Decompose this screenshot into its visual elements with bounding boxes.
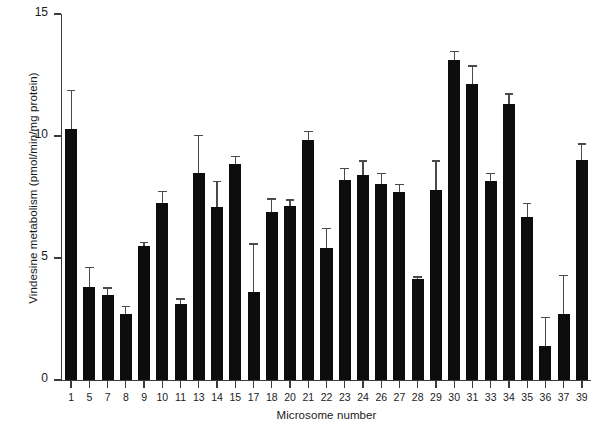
error-bar-stem bbox=[71, 90, 72, 129]
error-bar-stem bbox=[271, 198, 272, 211]
x-tick-mark bbox=[545, 381, 546, 388]
x-tick-mark bbox=[399, 381, 400, 388]
x-tick-label: 29 bbox=[430, 391, 442, 403]
bar bbox=[448, 60, 460, 380]
bar bbox=[412, 279, 424, 380]
error-bar-cap bbox=[505, 93, 514, 94]
error-bar-cap bbox=[158, 191, 167, 192]
x-tick-label: 36 bbox=[540, 391, 552, 403]
x-tick-label: 14 bbox=[211, 391, 223, 403]
x-tick-label: 27 bbox=[394, 391, 406, 403]
x-tick-label: 18 bbox=[266, 391, 278, 403]
x-tick-mark bbox=[143, 381, 144, 388]
x-tick-mark bbox=[454, 381, 455, 388]
bar bbox=[485, 181, 497, 380]
error-bar-cap bbox=[249, 243, 258, 244]
y-tick-label: 0 bbox=[0, 371, 48, 385]
error-bar-stem bbox=[527, 203, 528, 216]
error-bar-stem bbox=[216, 181, 217, 207]
bar bbox=[558, 314, 570, 380]
error-bar-cap bbox=[578, 143, 587, 144]
error-bar-cap bbox=[213, 181, 222, 182]
x-tick-label: 26 bbox=[375, 391, 387, 403]
error-bar-cap bbox=[377, 173, 386, 174]
error-bar-cap bbox=[322, 228, 331, 229]
x-tick-mark bbox=[581, 381, 582, 388]
x-tick-mark bbox=[417, 381, 418, 388]
x-tick-mark bbox=[125, 381, 126, 388]
x-tick-mark bbox=[326, 381, 327, 388]
x-tick-mark bbox=[508, 381, 509, 388]
x-tick-mark bbox=[235, 381, 236, 388]
y-tick-label: 15 bbox=[0, 5, 48, 19]
error-bar-cap bbox=[194, 135, 203, 136]
error-bar-cap bbox=[523, 203, 532, 204]
x-tick-mark bbox=[563, 381, 564, 388]
bar bbox=[339, 180, 351, 380]
bar bbox=[156, 203, 168, 380]
error-bar-cap bbox=[432, 160, 441, 161]
bar bbox=[430, 190, 442, 380]
x-tick-label: 22 bbox=[321, 391, 333, 403]
bar bbox=[320, 248, 332, 380]
error-bar-cap bbox=[468, 65, 477, 66]
bar bbox=[211, 207, 223, 380]
x-tick-mark bbox=[527, 381, 528, 388]
error-bar-stem bbox=[472, 65, 473, 83]
error-bar-stem bbox=[381, 173, 382, 184]
bar bbox=[266, 212, 278, 380]
error-bar-cap bbox=[304, 131, 313, 132]
bar bbox=[248, 292, 260, 380]
y-tick-mark bbox=[54, 135, 61, 136]
bar bbox=[120, 314, 132, 380]
x-tick-label: 8 bbox=[123, 391, 129, 403]
y-tick-label: 10 bbox=[0, 127, 48, 141]
y-tick-mark bbox=[54, 379, 61, 380]
bar bbox=[83, 287, 95, 380]
x-tick-mark bbox=[490, 381, 491, 388]
x-tick-label: 17 bbox=[248, 391, 260, 403]
x-tick-label: 7 bbox=[105, 391, 111, 403]
x-tick-label: 10 bbox=[156, 391, 168, 403]
bar bbox=[229, 164, 241, 380]
x-tick-mark bbox=[271, 381, 272, 388]
x-tick-mark bbox=[89, 381, 90, 388]
x-tick-label: 30 bbox=[448, 391, 460, 403]
x-tick-mark bbox=[162, 381, 163, 388]
x-tick-label: 39 bbox=[576, 391, 588, 403]
x-tick-mark bbox=[435, 381, 436, 388]
error-bar-cap bbox=[231, 156, 240, 157]
figure: Vindesine metabolism (pmol/min/mg protei… bbox=[0, 0, 603, 440]
error-bar-cap bbox=[176, 298, 185, 299]
bar bbox=[466, 84, 478, 380]
bar bbox=[65, 129, 77, 380]
error-bar-cap bbox=[340, 168, 349, 169]
bar bbox=[576, 160, 588, 380]
error-bar-stem bbox=[162, 191, 163, 203]
x-tick-label: 1 bbox=[68, 391, 74, 403]
error-bar-cap bbox=[413, 276, 422, 277]
error-bar-stem bbox=[435, 160, 436, 189]
x-tick-mark bbox=[472, 381, 473, 388]
error-bar-cap bbox=[559, 275, 568, 276]
x-tick-mark bbox=[253, 381, 254, 388]
error-bar-cap bbox=[85, 267, 94, 268]
x-tick-label: 13 bbox=[193, 391, 205, 403]
y-tick-mark bbox=[54, 13, 61, 14]
y-axis-title: Vindesine metabolism (pmol/min/mg protei… bbox=[22, 0, 44, 383]
bar bbox=[302, 140, 314, 380]
bar bbox=[375, 184, 387, 380]
error-bar-stem bbox=[563, 275, 564, 314]
x-tick-label: 31 bbox=[467, 391, 479, 403]
x-tick-label: 15 bbox=[229, 391, 241, 403]
error-bar-stem bbox=[253, 243, 254, 292]
x-tick-label: 37 bbox=[558, 391, 570, 403]
x-tick-label: 28 bbox=[412, 391, 424, 403]
x-tick-label: 35 bbox=[521, 391, 533, 403]
error-bar-cap bbox=[122, 306, 131, 307]
bar bbox=[175, 304, 187, 380]
x-tick-label: 20 bbox=[284, 391, 296, 403]
error-bar-stem bbox=[198, 135, 199, 173]
x-tick-mark bbox=[70, 381, 71, 388]
bar bbox=[357, 175, 369, 380]
